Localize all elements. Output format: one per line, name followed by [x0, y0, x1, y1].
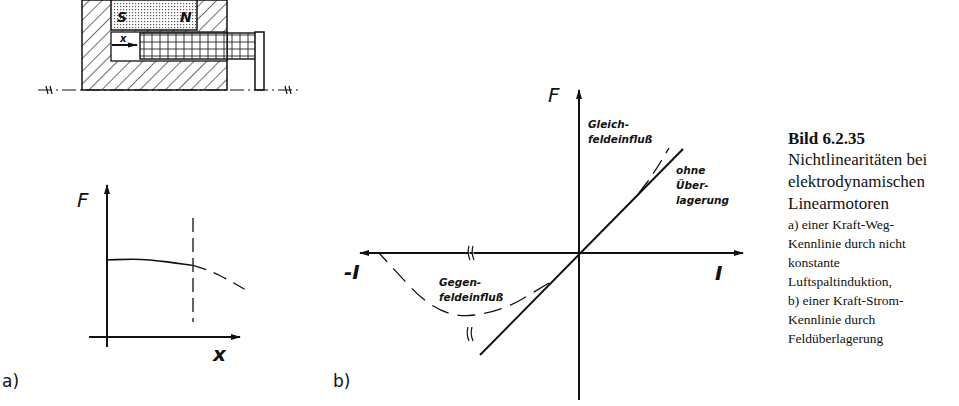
panel-b-curve-break	[467, 327, 473, 341]
displacement-label: x	[119, 33, 127, 44]
panel-b-y-label: F	[548, 83, 560, 107]
panel-a-x-label: x	[212, 342, 227, 366]
caption-sub-line: Kennlinie durch nicht	[788, 234, 959, 253]
panel-b-x-neg-label: -I	[344, 260, 360, 284]
figure-caption: Bild 6.2.35 Nichtlinearitäten bei elektr…	[788, 129, 959, 348]
caption-sub-line: konstante	[788, 253, 959, 272]
annotation-gegenfeld-2: feldeinfluß	[439, 291, 503, 303]
panel-a-chart: F x a)	[2, 185, 245, 391]
magnet-south-label: S	[117, 9, 127, 25]
caption-sub-line: Feldüberlagerung	[788, 329, 959, 348]
panel-a-curve-dashed	[193, 265, 245, 289]
panel-b-x-pos-label: I	[715, 261, 723, 285]
caption-main: Nichtlinearitäten bei elektrodynamischen…	[788, 149, 959, 215]
coil-winding	[140, 33, 256, 59]
caption-title: Bild 6.2.35	[788, 129, 959, 149]
panel-b-label: b)	[333, 371, 350, 391]
annotation-ohne-2: Über-	[676, 178, 709, 191]
magnet-north-label: N	[180, 9, 192, 25]
panel-a-label: a)	[2, 371, 19, 391]
annotation-ohne-1: ohne	[676, 164, 705, 176]
caption-sub-line: Luftspaltinduktion,	[788, 272, 959, 291]
annotation-gleichfeld-2: feldeinfluß	[588, 133, 652, 145]
annotation-gleichfeld-1: Gleich-	[588, 118, 629, 130]
caption-sub-line: Kennlinie durch	[788, 310, 959, 329]
panel-a-curve-solid	[107, 259, 193, 265]
caption-main-line: Linearmotoren	[788, 193, 959, 215]
annotation-gegenfeld-1: Gegen-	[439, 276, 481, 288]
motor-sketch: x S N	[38, 0, 300, 94]
caption-sub: a) einer Kraft-Weg- Kennlinie durch nich…	[788, 215, 959, 348]
caption-main-line: elektrodynamischen	[788, 171, 959, 193]
caption-sub-line: a) einer Kraft-Weg-	[788, 215, 959, 234]
panel-b-gleich-curve	[639, 148, 669, 193]
coil-carrier	[255, 32, 264, 90]
annotation-ohne-3: lagerung	[676, 194, 729, 206]
caption-main-line: Nichtlinearitäten bei	[788, 149, 959, 171]
panel-b-chart: F I -I b) Gleich- feldeinfluß ohne Über-…	[333, 83, 743, 400]
caption-sub-line: b) einer Kraft-Strom-	[788, 291, 959, 310]
panel-a-y-label: F	[77, 188, 89, 212]
